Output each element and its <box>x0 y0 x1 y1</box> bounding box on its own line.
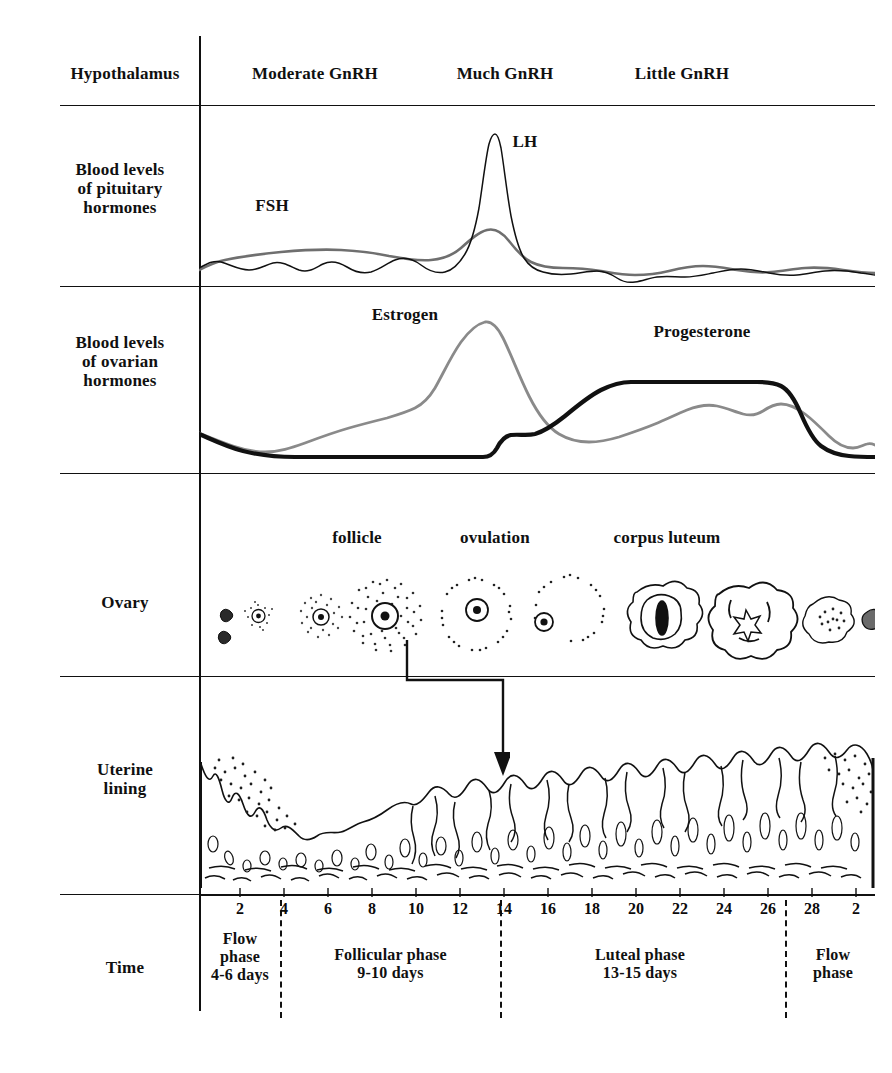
ovary-follicle-series <box>199 560 875 676</box>
ovary-stages-svg <box>199 560 875 676</box>
time-axis-day-12: 26 <box>748 900 788 918</box>
time-axis-day-8: 18 <box>572 900 612 918</box>
row-label-ovary: Ovary <box>55 593 195 612</box>
ovary-stage-7-corpus-luteum-early <box>627 581 702 648</box>
uterine-shedding-stipple <box>214 753 873 832</box>
ovary-stage-label-ovulation: ovulation <box>440 528 550 547</box>
row-label-pituitary: Blood levels of pituitary hormones <box>45 160 195 217</box>
ovarian-hormones-plot <box>199 290 875 473</box>
phase-label-flow-1: Flow phase 4-6 days <box>195 930 285 984</box>
ovary-stage-2 <box>244 601 273 631</box>
progesterone-label: Progesterone <box>627 322 777 341</box>
cycle-diagram: Hypothalamus Blood levels of pituitary h… <box>0 0 892 1073</box>
time-axis-day-13: 28 <box>792 900 832 918</box>
estrogen-label: Estrogen <box>345 305 465 324</box>
ovary-stage-1 <box>218 609 233 644</box>
divider-ovarian <box>60 473 875 474</box>
lh-label: LH <box>500 132 550 151</box>
divider-hypothalamus <box>60 105 875 106</box>
time-axis-day-5: 12 <box>440 900 480 918</box>
uterine-glands <box>208 813 859 872</box>
phase-label-flow-2: Flow phase <box>793 946 873 982</box>
time-axis-day-0: 2 <box>220 900 260 918</box>
ovary-stage-6-ovulation <box>534 574 606 643</box>
row-label-time: Time <box>55 958 195 977</box>
row-label-uterine: Uterine lining <box>55 760 195 798</box>
time-axis-day-14: 2 <box>836 900 876 918</box>
time-axis-day-7: 16 <box>528 900 568 918</box>
hypothalamus-segment-moderate: Moderate GnRH <box>225 64 405 83</box>
time-axis-day-1: 4 <box>264 900 304 918</box>
hypothalamus-segment-much: Much GnRH <box>435 64 575 83</box>
ovary-stage-9-corpus-albicans <box>803 597 854 643</box>
hypothalamus-segment-little: Little GnRH <box>612 64 752 83</box>
uterine-lining-svg <box>199 680 875 894</box>
phase-label-follicular: Follicular phase 9-10 days <box>288 946 493 982</box>
time-axis-day-2: 6 <box>308 900 348 918</box>
time-axis-day-9: 20 <box>616 900 656 918</box>
row-label-ovarian: Blood levels of ovarian hormones <box>45 333 195 390</box>
ovary-stage-8-corpus-luteum-mature <box>708 582 797 658</box>
ovary-stage-label-corpus-luteum: corpus luteum <box>597 528 737 547</box>
ovary-stage-3 <box>300 594 343 638</box>
fsh-curve <box>199 229 875 275</box>
row-label-hypothalamus: Hypothalamus <box>55 64 195 83</box>
ovarian-curves-svg <box>199 290 875 473</box>
time-axis-day-10: 22 <box>660 900 700 918</box>
time-axis-day-6: 14 <box>484 900 524 918</box>
time-axis-day-3: 8 <box>352 900 392 918</box>
time-axis-ticks <box>199 886 875 898</box>
divider-pituitary <box>60 286 875 287</box>
ovary-stage-10-scar <box>862 609 875 629</box>
time-axis-day-11: 24 <box>704 900 744 918</box>
time-axis-ticks-svg <box>199 886 875 898</box>
uterine-lining-illustration <box>199 680 875 894</box>
time-axis-day-4: 10 <box>396 900 436 918</box>
ovary-stage-label-follicle: follicle <box>312 528 402 547</box>
phase-label-luteal: Luteal phase 13-15 days <box>530 946 750 982</box>
fsh-label: FSH <box>242 196 302 215</box>
